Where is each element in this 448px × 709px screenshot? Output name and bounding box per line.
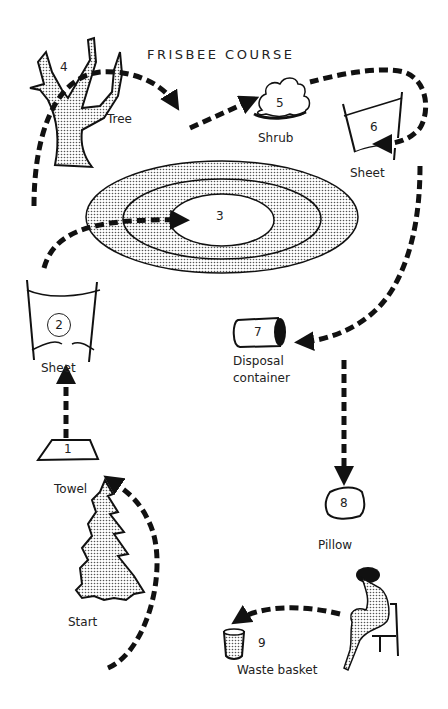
seated-woman-icon <box>344 567 398 670</box>
station-5-label: Shrub <box>258 131 293 145</box>
station-1-label: Towel <box>54 482 87 496</box>
start-label: Start <box>68 615 97 629</box>
station-2-label: Sheet <box>41 361 76 375</box>
station-7-number: 7 <box>254 325 262 339</box>
station-5-number: 5 <box>276 96 284 110</box>
station-4-label: Tree <box>107 112 132 126</box>
path-5-to-6 <box>310 70 426 144</box>
station-3-number: 3 <box>216 209 224 223</box>
station-6-number: 6 <box>370 120 378 134</box>
waste-basket-icon <box>224 629 244 659</box>
station-7-label-line1: Disposal <box>233 354 284 368</box>
path-4-to-5 <box>190 100 252 128</box>
path-8-to-9 <box>238 608 340 620</box>
station-8-label: Pillow <box>318 538 352 552</box>
station-4-number: 4 <box>60 60 68 74</box>
course-diagram <box>0 0 448 709</box>
station-6-label: Sheet <box>350 166 385 180</box>
tree-icon <box>30 38 122 167</box>
station-2-number: 2 <box>47 313 71 337</box>
station-8-number: 8 <box>340 496 348 510</box>
station-7-label-line2: container <box>233 371 290 385</box>
station-9-number: 9 <box>258 636 266 650</box>
station-1-number: 1 <box>64 442 72 456</box>
page-title: FRISBEE COURSE <box>147 47 294 62</box>
pine-tree-icon <box>76 480 144 600</box>
station-9-label: Waste basket <box>237 663 317 677</box>
